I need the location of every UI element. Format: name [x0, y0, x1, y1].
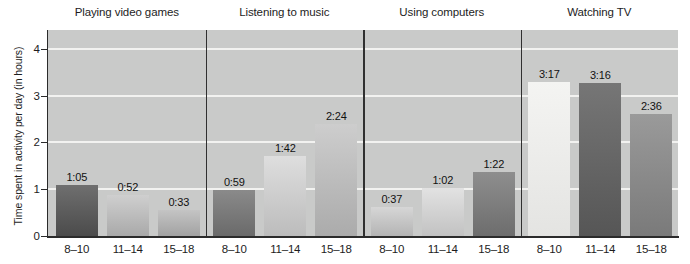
- bar-chart: Time spent in activity per day (in hours…: [0, 0, 690, 264]
- bar-value-label: 3:17: [539, 68, 560, 80]
- bar: 1:42: [264, 156, 306, 236]
- x-tick-label: 15–18: [636, 243, 667, 255]
- x-tick-label: 11–14: [270, 243, 300, 255]
- bar-value-label: 0:33: [168, 196, 189, 208]
- panel-separator: [363, 30, 365, 236]
- panel-title-listening-to-music: Listening to music: [239, 6, 329, 18]
- bar-value-label: 0:52: [117, 181, 138, 193]
- bar-value-label: 0:37: [381, 193, 402, 205]
- bar-value-label: 2:36: [641, 100, 662, 112]
- panel-separator: [521, 30, 523, 236]
- x-tick-label: 15–18: [321, 243, 352, 255]
- bar-value-label: 1:42: [275, 142, 296, 154]
- bar-value-label: 1:22: [483, 158, 504, 170]
- x-tick-label: 8–10: [222, 243, 247, 255]
- x-tick-label: 8–10: [64, 243, 89, 255]
- x-tick-label: 11–14: [428, 243, 458, 255]
- y-tick-label: 4: [34, 43, 40, 55]
- x-tick-label: 8–10: [379, 243, 404, 255]
- y-tick-label: 3: [34, 90, 40, 102]
- x-tick-label: 15–18: [478, 243, 509, 255]
- panel-separator: [206, 30, 208, 236]
- bar: 0:52: [107, 195, 149, 236]
- bar-value-label: 3:16: [590, 69, 611, 81]
- bar: 1:05: [56, 185, 98, 236]
- bar: 2:36: [630, 114, 672, 236]
- bar: 2:24: [315, 124, 357, 236]
- x-axis-line: [47, 236, 679, 238]
- plot-area: 1:050:520:330:591:422:240:371:021:223:17…: [48, 30, 678, 236]
- bar: 3:16: [579, 83, 621, 236]
- x-tick-label: 11–14: [113, 243, 143, 255]
- y-tick-label: 0: [34, 230, 40, 242]
- panel-title-playing-video-games: Playing video games: [75, 6, 179, 18]
- panel-title-watching-tv: Watching TV: [567, 6, 631, 18]
- bar-value-label: 1:05: [66, 171, 87, 183]
- x-tick-label: 8–10: [537, 243, 562, 255]
- x-tick-label: 15–18: [163, 243, 194, 255]
- y-tick-label: 1: [34, 183, 40, 195]
- bar: 1:22: [473, 172, 515, 236]
- bar: 0:37: [371, 207, 413, 236]
- y-tick-label: 2: [34, 136, 40, 148]
- bar: 1:02: [422, 188, 464, 236]
- y-axis: 01234: [0, 0, 48, 264]
- bar-value-label: 2:24: [326, 110, 347, 122]
- bar: 0:59: [213, 190, 255, 236]
- bar-value-label: 1:02: [432, 174, 453, 186]
- bar: 3:17: [528, 82, 570, 236]
- x-tick-label: 11–14: [585, 243, 615, 255]
- panel-title-using-computers: Using computers: [399, 6, 484, 18]
- bar-value-label: 0:59: [224, 176, 245, 188]
- bar: 0:33: [158, 210, 200, 236]
